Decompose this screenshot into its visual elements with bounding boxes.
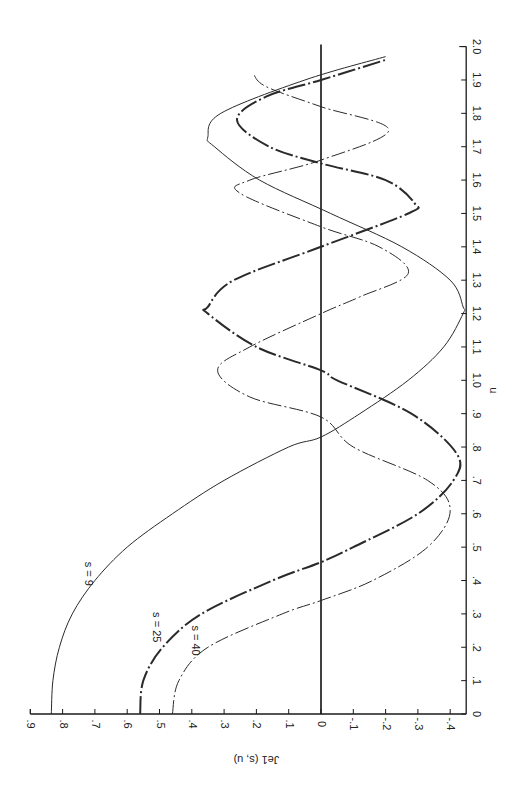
curves	[51, 57, 465, 714]
chart-canvas: .9.8.7.6.5.4.3.2.10-.1-.2-.3-.40.1.2.3.4…	[0, 0, 510, 785]
series-line-s-25	[140, 60, 460, 714]
labels: .9.8.7.6.5.4.3.2.10-.1-.2-.3-.40.1.2.3.4…	[25, 39, 500, 766]
u-tick-label: .3	[471, 609, 483, 618]
series-line-s-9	[51, 57, 465, 714]
value-tick-label: -.3	[413, 718, 425, 731]
series-line-s-40	[172, 73, 450, 714]
axes	[30, 45, 466, 714]
u-tick-label: .2	[471, 643, 483, 652]
u-tick-label: .4	[471, 576, 483, 585]
value-tick-label: .1	[284, 719, 296, 728]
u-tick-label: .6	[471, 509, 483, 518]
value-tick-label: .2	[251, 719, 263, 728]
u-tick-label: 0	[471, 711, 483, 717]
u-tick-label: .8	[471, 442, 483, 451]
u-tick-label: 1.0	[471, 373, 483, 388]
u-tick-label: 1.8	[471, 106, 483, 121]
u-tick-label: 2.0	[471, 39, 483, 54]
u-tick-label: 1.9	[471, 72, 483, 87]
u-tick-label: 1.6	[471, 172, 483, 187]
curve-label: s = 9	[83, 562, 95, 586]
value-axis-label: Je1 (s, u)	[233, 754, 279, 766]
u-axis-label: u	[488, 387, 500, 393]
u-tick-label: 1.4	[471, 239, 483, 254]
u-tick-label: 1.1	[471, 339, 483, 354]
value-tick-label: .4	[187, 719, 199, 728]
u-tick-label: .9	[471, 409, 483, 418]
u-tick-label: 1.5	[471, 206, 483, 221]
value-tick-label: .5	[155, 719, 167, 728]
value-tick-label: 0	[316, 721, 328, 727]
curve-label: s = 25	[151, 612, 163, 642]
u-tick-label: 1.3	[471, 273, 483, 288]
value-tick-label: .9	[25, 719, 37, 728]
value-tick-label: .8	[58, 719, 70, 728]
value-tick-label: -.1	[348, 718, 360, 731]
u-tick-label: 1.7	[471, 139, 483, 154]
value-tick-label: .7	[90, 719, 102, 728]
curve-label: s = 40	[190, 625, 202, 655]
u-tick-label: .5	[471, 543, 483, 552]
value-tick-label: .6	[122, 719, 134, 728]
u-tick-label: 1.2	[471, 306, 483, 321]
u-tick-label: .7	[471, 476, 483, 485]
value-tick-label: .3	[219, 719, 231, 728]
value-tick-label: -.4	[445, 718, 457, 731]
value-tick-label: -.2	[381, 718, 393, 731]
u-tick-label: .1	[471, 676, 483, 685]
